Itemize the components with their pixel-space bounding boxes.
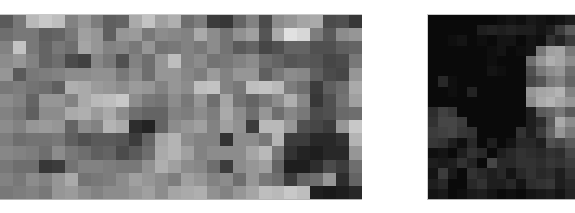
pixel-cell — [457, 35, 467, 45]
pixel-cell — [536, 138, 546, 148]
pixel-cell — [336, 160, 349, 173]
pixel-cell — [297, 94, 310, 107]
pixel-cell — [233, 68, 246, 81]
pixel-cell — [272, 107, 285, 120]
pixel-cell — [220, 15, 233, 28]
pixel-cell — [91, 54, 104, 67]
pixel-cell — [349, 186, 362, 199]
pixel-cell — [39, 81, 52, 94]
pixel-cell — [194, 120, 207, 133]
pixel-cell — [310, 173, 323, 186]
pixel-cell — [52, 41, 65, 54]
pixel-cell — [516, 76, 526, 86]
pixel-cell — [39, 41, 52, 54]
pixel-cell — [457, 117, 467, 127]
pixel-cell — [546, 168, 556, 178]
pixel-cell — [497, 148, 507, 158]
pixel-cell — [428, 179, 438, 189]
pixel-cell — [168, 160, 181, 173]
pixel-cell — [457, 56, 467, 66]
pixel-cell — [297, 107, 310, 120]
pixel-cell — [497, 97, 507, 107]
pixel-cell — [207, 107, 220, 120]
pixel-cell — [78, 94, 91, 107]
pixel-cell — [39, 68, 52, 81]
pixel-cell — [207, 81, 220, 94]
pixel-cell — [457, 66, 467, 76]
pixel-cell — [448, 117, 458, 127]
pixel-cell — [448, 127, 458, 137]
pixel-cell — [26, 15, 39, 28]
pixel-cell — [39, 28, 52, 41]
pixel-cell — [487, 87, 497, 97]
pixel-cell — [233, 186, 246, 199]
pixel-cell — [546, 148, 556, 158]
pixel-cell — [207, 173, 220, 186]
pixel-cell — [448, 35, 458, 45]
pixel-cell — [26, 28, 39, 41]
pixel-cell — [0, 28, 13, 41]
pixel-cell — [181, 54, 194, 67]
pixel-cell — [536, 179, 546, 189]
pixel-cell — [0, 15, 13, 28]
pixel-cell — [65, 133, 78, 146]
pixel-cell — [546, 66, 556, 76]
pixel-cell — [78, 186, 91, 199]
pixel-cell — [65, 146, 78, 159]
pixel-cell — [428, 138, 438, 148]
pixel-cell — [52, 54, 65, 67]
pixel-cell — [259, 15, 272, 28]
pixel-cell — [0, 41, 13, 54]
pixel-cell — [142, 81, 155, 94]
pixel-cell — [65, 81, 78, 94]
pixel-cell — [155, 107, 168, 120]
pixel-cell — [526, 76, 536, 86]
pixel-cell — [297, 41, 310, 54]
pixel-cell — [116, 94, 129, 107]
pixel-cell — [467, 46, 477, 56]
pixel-cell — [26, 41, 39, 54]
pixel-cell — [272, 54, 285, 67]
pixel-cell — [428, 35, 438, 45]
pixel-cell — [39, 173, 52, 186]
pixel-cell — [448, 15, 458, 25]
pixel-cell — [487, 127, 497, 137]
pixel-cell — [448, 46, 458, 56]
pixel-cell — [168, 173, 181, 186]
pixel-cell — [516, 66, 526, 76]
pixel-cell — [0, 120, 13, 133]
pixel-cell — [142, 146, 155, 159]
pixel-cell — [259, 120, 272, 133]
pixel-cell — [181, 68, 194, 81]
pixel-cell — [52, 186, 65, 199]
pixel-cell — [565, 168, 575, 178]
pixel-cell — [103, 133, 116, 146]
pixel-cell — [555, 179, 565, 189]
pixel-cell — [91, 146, 104, 159]
pixel-cell — [526, 15, 536, 25]
pixel-cell — [565, 97, 575, 107]
pixel-cell — [168, 186, 181, 199]
pixel-cell — [272, 120, 285, 133]
pixel-cell — [323, 120, 336, 133]
pixel-cell — [516, 107, 526, 117]
pixel-cell — [168, 54, 181, 67]
pixel-cell — [457, 107, 467, 117]
pixel-cell — [497, 56, 507, 66]
pixel-cell — [323, 107, 336, 120]
pixel-cell — [487, 56, 497, 66]
pixel-cell — [336, 81, 349, 94]
pixel-cell — [323, 68, 336, 81]
pixel-cell — [233, 160, 246, 173]
pixel-cell — [310, 186, 323, 199]
pixel-cell — [91, 15, 104, 28]
pixel-cell — [91, 41, 104, 54]
pixel-cell — [536, 189, 546, 199]
pixel-cell — [497, 189, 507, 199]
pixel-cell — [272, 133, 285, 146]
pixel-cell — [526, 25, 536, 35]
pixel-cell — [272, 68, 285, 81]
pixel-cell — [155, 81, 168, 94]
pixel-cell — [194, 41, 207, 54]
pixel-cell — [438, 66, 448, 76]
